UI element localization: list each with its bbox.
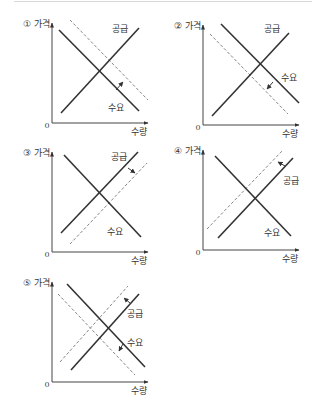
- demand-label: 수요: [281, 73, 297, 83]
- diagram-panel-5: ⑤ 가격0수량공급수요: [23, 277, 148, 396]
- quantity-axis-label: 수량: [282, 128, 298, 139]
- price-axis-label: ① 가격: [23, 18, 50, 29]
- supply-label: 공급: [111, 152, 127, 162]
- shifted-curve: [58, 294, 135, 375]
- demand-curve: [67, 284, 145, 367]
- origin-label: 0: [195, 123, 200, 132]
- origin-label: 0: [44, 380, 49, 389]
- shift-arrow-icon: [128, 168, 135, 173]
- supply-curve: [71, 294, 139, 370]
- shift-arrow-icon: [278, 162, 285, 166]
- demand-label: 수요: [108, 103, 124, 113]
- supply-demand-diagrams: ① 가격0수량공급수요② 가격0수량공급수요③ 가격0수량공급수요④ 가격0수량…: [0, 0, 315, 410]
- demand-label: 수요: [127, 338, 143, 348]
- diagram-panel-3: ③ 가격0수량공급수요: [23, 147, 148, 266]
- demand-curve: [64, 155, 141, 237]
- quantity-axis-label: 수량: [131, 255, 147, 266]
- shift-arrow-icon: [116, 82, 123, 90]
- origin-label: 0: [195, 248, 200, 257]
- shifted-curve: [60, 286, 128, 362]
- quantity-axis-label: 수량: [131, 126, 147, 137]
- supply-label: 공급: [127, 309, 143, 319]
- supply-label: 공급: [283, 176, 299, 186]
- demand-label: 수요: [107, 227, 123, 237]
- supply-label: 공급: [112, 24, 128, 34]
- quantity-axis-label: 수량: [282, 253, 298, 264]
- diagram-panel-2: ② 가격0수량공급수요: [174, 20, 299, 139]
- price-axis-label: ② 가격: [174, 20, 201, 31]
- price-axis-label: ④ 가격: [174, 145, 201, 156]
- shift-arrow-icon: [124, 298, 130, 303]
- diagram-panel-1: ① 가격0수량공급수요: [23, 18, 148, 137]
- shift-arrow-icon: [267, 82, 273, 89]
- supply-label: 공급: [264, 24, 280, 34]
- diagram-panel-4: ④ 가격0수량공급수요: [174, 145, 299, 264]
- shifted-curve: [207, 150, 283, 229]
- price-axis-label: ⑤ 가격: [23, 277, 50, 288]
- quantity-axis-label: 수량: [131, 385, 147, 396]
- price-axis-label: ③ 가격: [23, 147, 50, 158]
- shift-arrow-icon: [119, 344, 123, 351]
- origin-label: 0: [44, 250, 49, 259]
- origin-label: 0: [44, 121, 49, 130]
- demand-curve: [215, 156, 291, 236]
- demand-label: 수요: [264, 228, 280, 238]
